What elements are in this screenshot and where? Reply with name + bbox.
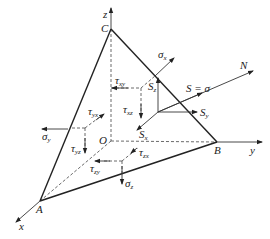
- label-sz: Sz: [148, 80, 157, 94]
- label-s-sigma: S = σ: [186, 82, 210, 94]
- label-tau-xy: τxy: [115, 74, 126, 88]
- edge-ob: [111, 141, 217, 142]
- edge-ca: [40, 29, 111, 201]
- label-tau-xz: τxz: [123, 103, 133, 117]
- label-y: y: [249, 144, 255, 156]
- stress-tetrahedron-diagram: z C O B y A x N S = σ σx Sz Sy Sx τxy τx…: [0, 0, 270, 239]
- label-sigma-x: σx: [158, 48, 167, 62]
- label-sy: Sy: [200, 106, 210, 120]
- oblique-face-vectors: [137, 71, 253, 130]
- label-tau-zx: τzx: [139, 146, 150, 160]
- label-o: O: [99, 134, 107, 146]
- label-c: C: [101, 22, 109, 34]
- label-x: x: [18, 220, 24, 232]
- label-a: A: [35, 203, 43, 215]
- tau-zx-arrow: [131, 148, 137, 153]
- label-sigma-y: σy: [42, 130, 51, 144]
- labels: z C O B y A x N S = σ σx Sz Sy Sx τxy τx…: [18, 8, 255, 232]
- label-sx: Sx: [139, 128, 149, 142]
- label-sigma-z: σz: [125, 177, 133, 191]
- label-b: B: [214, 144, 221, 156]
- resultant-s-arrow: [158, 93, 202, 112]
- face-z-element: [95, 148, 138, 184]
- label-n: N: [239, 59, 248, 71]
- label-tau-zy: τzy: [90, 162, 101, 176]
- label-z: z: [102, 8, 108, 20]
- label-tau-yx: τyx: [88, 105, 99, 119]
- label-tau-yz: τyz: [71, 142, 81, 156]
- edge-ab: [40, 142, 217, 201]
